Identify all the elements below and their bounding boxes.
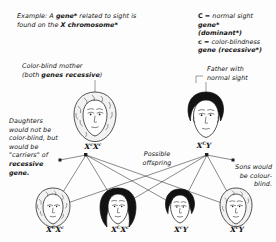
genotype-father: XCY (190, 141, 218, 150)
allele-legend: C = normal sight gene* (dominant*) c = c… (198, 12, 274, 55)
offspring-line2: offspring (143, 159, 172, 167)
legend-dominant-gene: gene* (198, 21, 219, 29)
geno-father-x2: Y (206, 141, 211, 150)
mother-note-line2-b: ) (100, 71, 103, 79)
genotype-child3: XcY (166, 225, 196, 234)
possible-offspring-note: Possible offspring (133, 150, 181, 167)
child3-portrait (166, 189, 195, 223)
example-chromosome-term: X chromosome* (61, 21, 118, 29)
mother-note-genes-recessive: genes recessive (41, 71, 99, 79)
sons-note: Sons would be colour- blind. (210, 163, 272, 189)
offspring-line1: Possible (144, 150, 170, 158)
example-line1-a: Example: A (17, 12, 56, 20)
daughters-line5: "carriers" of (9, 151, 48, 159)
mother-note-line2-a: (both (22, 71, 41, 79)
geno-mother-sup2: c (99, 142, 102, 147)
daughters-gene-term: gene. (9, 169, 29, 177)
father-portrait (188, 92, 224, 138)
geno-c4-x2: Y (239, 225, 244, 234)
child2-portrait (100, 188, 136, 227)
mother-note: Color-blind mother (both genes recessive… (22, 62, 114, 79)
daughters-recessive-term: recessive (9, 160, 43, 168)
legend-recessive-eq: = color-blindness (202, 38, 260, 46)
sons-line2: be colour- (240, 172, 272, 180)
geno-c2-sup2: c (126, 225, 129, 230)
mother-portrait (74, 92, 116, 142)
daughters-line4: would be (9, 143, 38, 151)
father-note: Father with normal sight (207, 65, 273, 82)
genotype-mother: XcXc (78, 142, 108, 151)
mother-note-line1: Color-blind mother (22, 62, 83, 70)
colour-blindness-inheritance-diagram: Example: A gene* related to sight is fou… (0, 0, 276, 242)
geno-c1-sup2: c (61, 225, 64, 230)
example-note: Example: A gene* related to sight is fou… (17, 12, 157, 29)
sons-line1: Sons would (235, 163, 272, 171)
example-gene-term: gene* (56, 12, 77, 20)
example-line1-b: related to sight (77, 12, 129, 20)
child4-portrait (220, 188, 252, 227)
genotype-child2: XCXc (103, 225, 137, 234)
child1-portrait (36, 188, 70, 227)
daughters-line1: Daughters (9, 117, 43, 125)
daughters-line2: would not be (9, 126, 51, 134)
daughters-note: Daughters would not be color-blind, but … (9, 117, 71, 177)
daughters-line3: color-blind, but (9, 134, 58, 142)
father-note-line1: Father with (207, 65, 244, 73)
geno-c3-x2: Y (183, 225, 188, 234)
sons-line3: blind. (254, 180, 272, 188)
legend-recessive-gene: gene (recessive*) (198, 46, 262, 54)
father-leader-line (196, 76, 203, 83)
legend-dominant-eq: = normal sight (203, 12, 253, 20)
father-note-line2: normal sight (207, 74, 248, 82)
genotype-child4: XcY (222, 225, 252, 234)
genotype-child1: XCXc (38, 225, 72, 234)
legend-dominant-qualifier: (dominant*) (198, 29, 242, 37)
